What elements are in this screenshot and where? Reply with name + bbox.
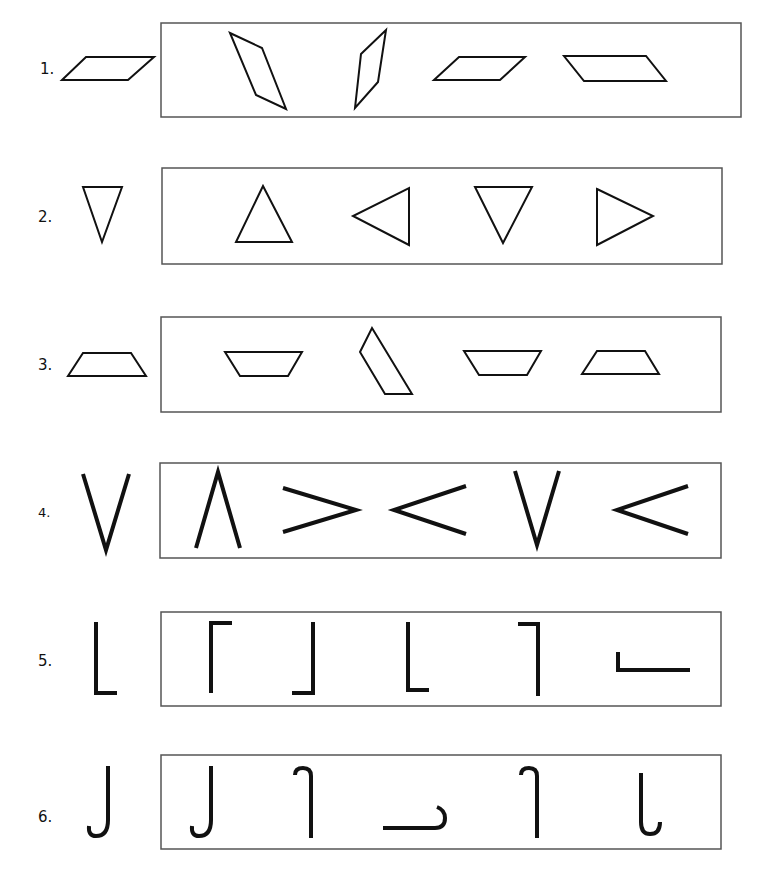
row-6-options-frame[interactable] (161, 755, 721, 849)
row-3-options-frame[interactable] (161, 317, 721, 412)
row-3-option-2-trapezoid[interactable] (360, 328, 412, 394)
row-5-option-3-bracket[interactable] (408, 622, 429, 690)
worksheet-figures (0, 0, 759, 876)
row-5-option-2-bracket[interactable] (292, 622, 313, 693)
row-1-option-2-parallelogram[interactable] (355, 30, 386, 108)
row-2-option-3-triangle[interactable] (475, 187, 532, 243)
row-6 (89, 755, 721, 849)
row-6-option-3-hook[interactable] (383, 807, 445, 828)
row-4-option-3-v[interactable] (394, 486, 466, 534)
row-1-options-frame[interactable] (161, 23, 741, 117)
row-2-option-2-triangle[interactable] (353, 188, 409, 245)
row-4-options-frame[interactable] (160, 463, 721, 558)
row-4-target-v (83, 474, 129, 550)
row-5 (96, 612, 721, 706)
row-2-option-4-triangle[interactable] (597, 189, 653, 245)
row-1-option-4-parallelogram[interactable] (564, 56, 666, 81)
row-1-option-1-parallelogram[interactable] (230, 33, 286, 109)
row-3-option-3-trapezoid[interactable] (464, 351, 541, 375)
row-5-option-4-bracket[interactable] (518, 624, 538, 696)
row-5-options-frame[interactable] (161, 612, 721, 706)
row-2-option-1-triangle[interactable] (236, 186, 292, 242)
row-5-option-1-bracket[interactable] (211, 623, 232, 693)
row-5-option-5-bracket[interactable] (618, 652, 690, 670)
row-1 (62, 23, 741, 117)
row-4-option-4-v[interactable] (515, 471, 559, 545)
row-2 (83, 168, 722, 264)
row-4-option-1-v[interactable] (196, 472, 240, 548)
row-6-option-2-hook[interactable] (295, 768, 311, 838)
row-4-option-5-v[interactable] (617, 486, 688, 534)
row-4 (83, 463, 721, 558)
row-2-options-frame[interactable] (162, 168, 722, 264)
row-3 (68, 317, 721, 412)
row-2-target-triangle (83, 187, 122, 242)
row-5-target-bracket (96, 622, 117, 693)
row-3-target-trapezoid (68, 353, 146, 376)
row-6-option-5-hook[interactable] (641, 773, 660, 834)
row-1-option-3-parallelogram[interactable] (434, 57, 525, 80)
row-6-option-4-hook[interactable] (521, 768, 537, 838)
row-1-target-parallelogram (62, 57, 154, 80)
row-4-option-2-v[interactable] (283, 488, 356, 532)
row-3-option-1-trapezoid[interactable] (225, 352, 302, 376)
row-6-target-hook (89, 766, 108, 836)
row-3-option-4-trapezoid[interactable] (582, 351, 659, 374)
row-6-option-1-hook[interactable] (192, 766, 211, 836)
